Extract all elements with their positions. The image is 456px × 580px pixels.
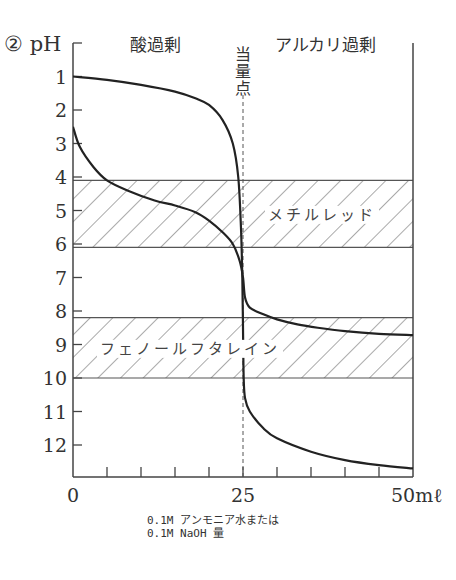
x-axis-label-line-1: 0.1M アンモニア水または bbox=[147, 514, 279, 527]
x-tick-label: 25 bbox=[231, 484, 255, 506]
y-tick-label: 4 bbox=[55, 166, 67, 188]
y-tick-label: 7 bbox=[55, 267, 67, 289]
y-tick-label: 10 bbox=[43, 367, 67, 389]
y-tick-label: 5 bbox=[55, 200, 67, 222]
equivalence-point-label: 当量点 bbox=[235, 45, 251, 98]
equivalence-point-char: 点 bbox=[235, 79, 251, 98]
y-tick-label: 9 bbox=[55, 334, 67, 356]
y-tick-label: 6 bbox=[55, 233, 67, 255]
region-label-alkali: アルカリ過剰 bbox=[275, 35, 376, 55]
y-tick-label: 11 bbox=[43, 401, 67, 423]
band-label: メチルレッド bbox=[268, 206, 376, 224]
x-tick-label: 0 bbox=[67, 484, 79, 506]
curves bbox=[73, 77, 413, 469]
chart-title: ② pH bbox=[4, 32, 61, 56]
y-tick-label: 3 bbox=[55, 133, 67, 155]
titration-chart: ② pH 酸過剰 アルカリ過剰 当量点 12345678910111202550… bbox=[0, 0, 456, 580]
x-axis-label: 0.1M アンモニア水または 0.1M NaOH 量 bbox=[147, 514, 279, 540]
x-axis-label-line-2: 0.1M NaOH 量 bbox=[147, 527, 279, 540]
region-label-acid: 酸過剰 bbox=[130, 35, 181, 55]
y-tick-label: 1 bbox=[55, 66, 67, 88]
x-tick-label: 50mℓ bbox=[391, 484, 442, 506]
y-tick-label: 12 bbox=[43, 434, 67, 456]
y-tick-label: 2 bbox=[55, 99, 67, 121]
band-label: フェノールフタレイン bbox=[100, 340, 280, 358]
y-tick-label: 8 bbox=[55, 300, 67, 322]
